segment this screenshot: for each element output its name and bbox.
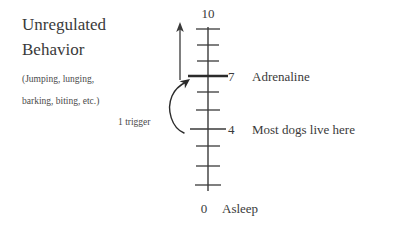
arousal-scale-diagram: Unregulated Behavior (Jumping, lunging, … — [0, 0, 414, 232]
label-level-10-number: 10 — [196, 6, 220, 22]
label-level-0-number: 0 — [192, 201, 216, 217]
label-level-4-text: Most dogs live here — [252, 122, 355, 138]
trigger-arrow-shaft — [170, 82, 186, 133]
trigger-arrow-head — [180, 79, 191, 88]
scale-drawing — [0, 0, 414, 232]
label-level-4-number: 4 — [228, 122, 235, 138]
label-level-0-text: Asleep — [222, 201, 258, 217]
label-level-7-text: Adrenaline — [252, 69, 310, 85]
label-level-7-number: 7 — [228, 69, 235, 85]
